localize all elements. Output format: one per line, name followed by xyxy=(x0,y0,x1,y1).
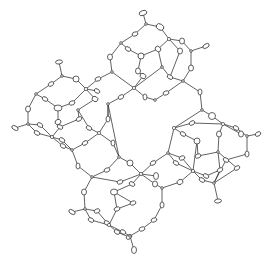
atom-node xyxy=(35,93,38,96)
atom-ellipsoid xyxy=(136,68,141,74)
metal-center-atom xyxy=(132,86,135,89)
metal-center-atom xyxy=(191,169,194,172)
atom-node xyxy=(190,50,193,53)
atom-ellipsoid xyxy=(154,173,159,180)
atom-node xyxy=(91,176,94,179)
atom-ellipsoid xyxy=(194,138,200,144)
atom-ellipsoid xyxy=(209,113,216,120)
metal-center-atom xyxy=(167,37,170,40)
atom-node xyxy=(120,42,123,45)
metal-center-atom xyxy=(50,135,53,138)
atom-node xyxy=(111,71,114,74)
atom-node xyxy=(61,75,64,78)
atom-ellipsoid xyxy=(54,105,62,111)
atom-node xyxy=(154,99,157,102)
atom-node xyxy=(107,103,110,106)
atom-ellipsoid xyxy=(143,94,147,100)
atom-ellipsoid xyxy=(138,53,144,59)
atom-ellipsoid xyxy=(108,54,113,60)
atom-ellipsoid xyxy=(180,38,185,44)
atom-node xyxy=(201,109,204,112)
background xyxy=(0,0,271,265)
atom-ellipsoid xyxy=(178,48,183,54)
atom-ellipsoid xyxy=(111,140,115,146)
atom-node xyxy=(167,152,170,155)
atom-ellipsoid xyxy=(73,76,79,82)
atom-node xyxy=(213,182,216,185)
atom-ellipsoid xyxy=(160,202,164,208)
atom-node xyxy=(182,80,185,83)
atom-ellipsoid xyxy=(153,181,158,187)
atom-ellipsoid xyxy=(132,247,137,254)
metal-center-atom xyxy=(84,87,87,90)
atom-ellipsoid xyxy=(245,151,249,157)
atom-node xyxy=(77,109,80,112)
atom-ellipsoid xyxy=(189,65,194,71)
atom-ellipsoid xyxy=(106,116,110,122)
metal-center-atom xyxy=(139,172,142,175)
atom-ellipsoid xyxy=(82,189,87,195)
atom-ellipsoid xyxy=(127,160,133,166)
atom-ellipsoid xyxy=(26,106,31,112)
atom-node xyxy=(161,66,164,69)
molecular-structure-diagram xyxy=(0,0,271,265)
atom-node xyxy=(84,208,87,211)
atom-node xyxy=(145,23,148,26)
atom-node xyxy=(161,187,164,190)
atom-node xyxy=(129,235,132,238)
metal-center-atom xyxy=(97,131,100,134)
atom-node xyxy=(27,123,30,126)
metal-center-atom xyxy=(107,223,110,226)
atom-node xyxy=(118,156,121,159)
atom-node xyxy=(246,135,249,138)
atom-ellipsoid xyxy=(111,189,118,195)
atom-node xyxy=(71,149,74,152)
metal-center-atom xyxy=(172,126,175,129)
atom-node xyxy=(217,151,220,154)
atom-ellipsoid xyxy=(198,89,202,95)
metal-center-atom xyxy=(221,122,224,125)
atom-ellipsoid xyxy=(76,163,80,169)
atom-ellipsoid xyxy=(239,131,244,137)
atom-ellipsoid xyxy=(217,131,222,137)
